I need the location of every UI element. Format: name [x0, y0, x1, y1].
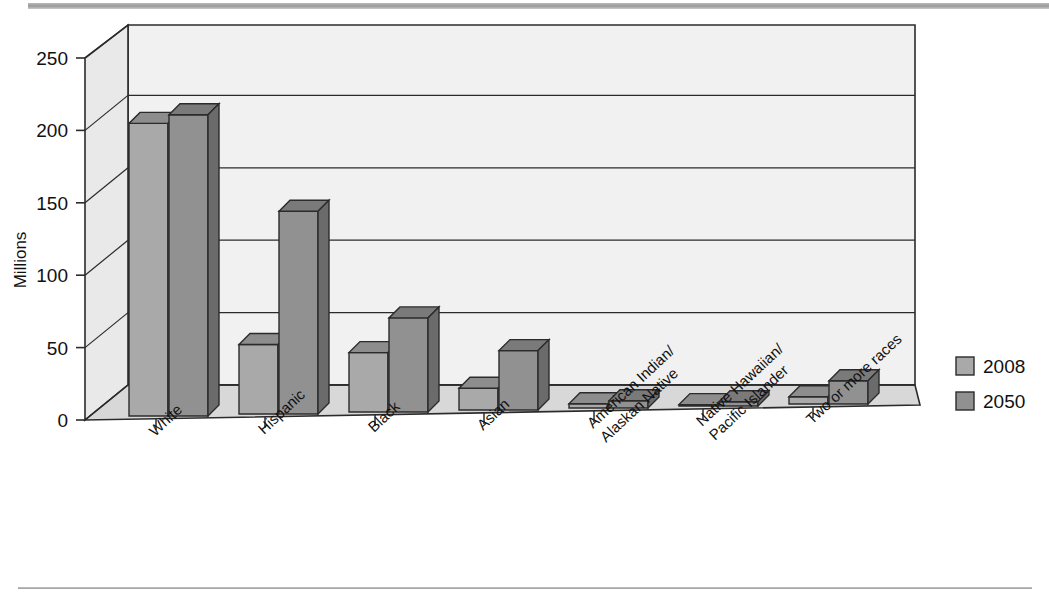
y-axis-ticks [76, 58, 85, 420]
chart-figure: 250 200 150 100 50 0 Millions [0, 0, 1049, 599]
y-tick-label: 250 [36, 48, 68, 69]
y-axis-title: Millions [11, 232, 30, 289]
bar-white-2050 [169, 104, 219, 416]
y-tick-label: 50 [47, 338, 68, 359]
legend-item-2050[interactable]: 2050 [956, 391, 1025, 412]
bar-asian-2050 [499, 340, 549, 410]
y-axis-title-group: Millions [11, 232, 30, 289]
y-tick-label: 200 [36, 120, 68, 141]
plot-left-wall [85, 25, 128, 420]
legend-swatch [956, 392, 974, 410]
plot-back-wall [128, 25, 915, 385]
y-tick-labels: 250 200 150 100 50 0 [36, 48, 68, 431]
y-tick-label: 150 [36, 193, 68, 214]
legend-label: 2050 [983, 391, 1025, 412]
legend-item-2008[interactable]: 2008 [956, 356, 1025, 377]
legend-swatch [956, 357, 974, 375]
legend-label: 2008 [983, 356, 1025, 377]
bar-black-2050 [389, 307, 439, 412]
y-tick-label: 0 [57, 410, 68, 431]
bar-hispanic-2050 [279, 200, 329, 414]
legend: 2008 2050 [956, 356, 1025, 412]
y-tick-label: 100 [36, 265, 68, 286]
bar-chart-3d: 250 200 150 100 50 0 Millions [0, 0, 1049, 599]
